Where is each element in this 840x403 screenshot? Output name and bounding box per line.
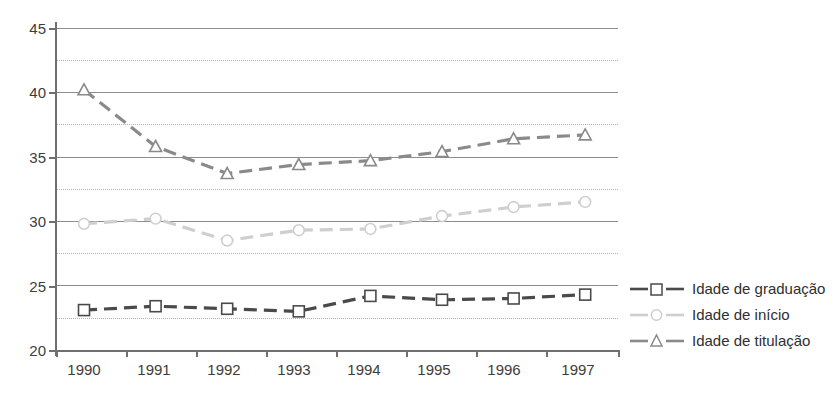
circle-marker-icon: [628, 302, 686, 328]
gridline-27p5: [56, 253, 618, 254]
gridline-35: [56, 157, 618, 158]
y-tick-mark-20: [49, 350, 56, 352]
plot-area: [56, 28, 618, 350]
legend-label-graduacao: Idade de graduação: [692, 280, 825, 298]
x-tick-mark-6: [476, 350, 478, 357]
gridline-32p5: [56, 189, 618, 190]
x-tick-label-1991: 1991: [119, 362, 189, 377]
x-tick-mark-5: [406, 350, 408, 357]
y-tick-label-40: 40: [12, 85, 46, 100]
line-chart: 45 40 35 30 25 20 1990 1991 1992 1993 19…: [0, 0, 840, 403]
gridline-22p5: [56, 318, 618, 319]
gridline-40: [56, 92, 618, 93]
x-tick-label-1995: 1995: [399, 362, 469, 377]
y-tick-label-45: 45: [12, 21, 46, 36]
x-axis-line: [55, 350, 620, 352]
square-marker-icon: [628, 276, 686, 302]
legend: Idade de graduação Idade de início Idade…: [628, 276, 834, 354]
y-tick-mark-35: [49, 157, 56, 159]
gridline-45: [56, 28, 618, 29]
y-tick-mark-40: [49, 92, 56, 94]
x-tick-mark-0: [56, 350, 58, 357]
legend-item-graduacao[interactable]: Idade de graduação: [628, 276, 834, 302]
y-tick-label-35: 35: [12, 150, 46, 165]
legend-label-titulacao: Idade de titulação: [692, 332, 810, 350]
y-axis-labels: 45 40 35 30 25 20: [6, 0, 46, 403]
y-tick-mark-45: [49, 28, 56, 30]
gridline-30: [56, 221, 618, 222]
x-tick-mark-3: [266, 350, 268, 357]
gridline-25: [56, 285, 618, 286]
y-tick-label-30: 30: [12, 214, 46, 229]
gridline-37p5: [56, 124, 618, 125]
x-tick-mark-4: [336, 350, 338, 357]
x-tick-label-1992: 1992: [189, 362, 259, 377]
legend-item-inicio[interactable]: Idade de início: [628, 302, 834, 328]
x-tick-label-1996: 1996: [469, 362, 539, 377]
x-tick-mark-8: [618, 350, 620, 357]
x-tick-mark-1: [126, 350, 128, 357]
x-tick-label-1994: 1994: [329, 362, 399, 377]
gridline-42p5: [56, 60, 618, 61]
legend-item-titulacao[interactable]: Idade de titulação: [628, 328, 834, 354]
x-tick-label-1997: 1997: [543, 362, 613, 377]
y-tick-mark-25: [49, 286, 56, 288]
x-tick-label-1993: 1993: [259, 362, 329, 377]
x-tick-label-1990: 1990: [49, 362, 119, 377]
legend-label-inicio: Idade de início: [692, 306, 790, 324]
y-axis-line: [55, 22, 57, 356]
triangle-marker-icon: [628, 328, 686, 354]
y-tick-label-20: 20: [12, 343, 46, 358]
x-tick-mark-7: [546, 350, 548, 357]
x-tick-mark-2: [196, 350, 198, 357]
y-tick-label-25: 25: [12, 279, 46, 294]
y-tick-mark-30: [49, 221, 56, 223]
